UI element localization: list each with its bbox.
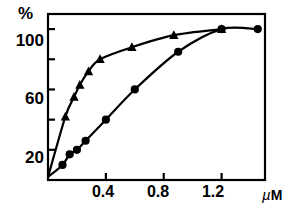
data-point-circle	[73, 146, 81, 154]
plot-canvas	[0, 0, 299, 213]
dose-response-chart: % 100 60 20 0.4 0.8 1.2 µM	[0, 0, 299, 213]
data-point-circle	[66, 150, 74, 158]
series-triangle	[48, 24, 226, 177]
data-point-triangle	[61, 112, 70, 121]
data-series-layer	[48, 24, 262, 177]
data-point-circle	[102, 116, 110, 124]
series-circle	[48, 25, 262, 177]
data-point-circle	[174, 48, 182, 56]
data-point-circle	[254, 25, 262, 33]
data-point-circle	[131, 85, 139, 93]
data-point-circle	[58, 161, 66, 169]
data-point-triangle	[69, 92, 78, 101]
series-line-circle	[48, 28, 258, 177]
data-point-circle	[82, 137, 90, 145]
data-point-circle	[218, 25, 226, 33]
series-line-triangle	[48, 29, 222, 177]
